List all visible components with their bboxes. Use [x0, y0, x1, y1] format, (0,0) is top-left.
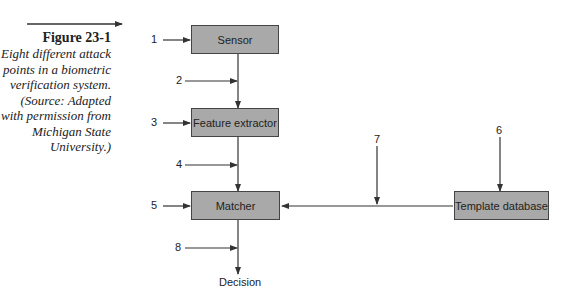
decision-label: Decision	[219, 276, 261, 288]
feature-extractor-box: Feature extractor	[191, 108, 279, 137]
attack-point-7: 7	[374, 133, 380, 145]
attack-point-1: 1	[151, 33, 157, 45]
template-database-box: Template database	[454, 191, 549, 220]
attack-point-3: 3	[151, 116, 157, 128]
attack-point-5: 5	[151, 199, 157, 211]
figure-caption: Figure 23-1 Eight different attack point…	[0, 30, 111, 155]
matcher-box: Matcher	[191, 191, 280, 220]
attack-point-8: 8	[175, 241, 181, 253]
attack-point-2: 2	[176, 74, 182, 86]
caption-body: Eight different attack points in a biome…	[0, 46, 111, 155]
attack-point-4: 4	[176, 158, 182, 170]
attack-point-6: 6	[496, 124, 502, 136]
sensor-box: Sensor	[191, 25, 279, 54]
caption-title: Figure 23-1	[0, 30, 111, 46]
